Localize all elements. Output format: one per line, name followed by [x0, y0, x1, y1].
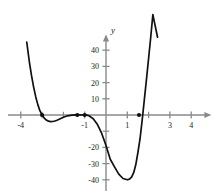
x-tick-label: 4 [189, 121, 193, 130]
marked-point-root-right [137, 113, 141, 117]
y-tick-label: 20 [91, 79, 99, 88]
x-tick-label: -4 [17, 121, 24, 130]
x-tick-label: 3 [168, 121, 172, 130]
y-axis-arrow [103, 35, 109, 42]
coordinate-plot: -4-113410203040-20-30-40yx [0, 0, 213, 191]
x-tick-label: 1 [125, 121, 129, 130]
marked-point-root-double-left [75, 113, 79, 117]
y-tick-label: 10 [91, 95, 99, 104]
y-tick-label: 40 [91, 46, 99, 55]
y-tick-label: -30 [88, 160, 99, 169]
y-tick-label: -20 [88, 143, 99, 152]
x-axis-arrow [204, 112, 211, 118]
y-tick-label: -40 [88, 176, 99, 185]
graph-figure: -4-113410203040-20-30-40yx [0, 0, 213, 191]
y-axis-label: y [110, 25, 115, 35]
marked-point-root-double [83, 113, 87, 117]
marked-point-root-left [40, 113, 44, 117]
x-tick-label: -1 [81, 121, 88, 130]
y-tick-label: 30 [91, 62, 99, 71]
x-axis-label: x [212, 111, 213, 121]
